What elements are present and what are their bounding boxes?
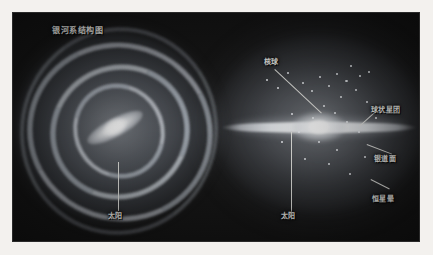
label-sun-face-on: 太阳 [108,212,123,221]
globular-cluster-dot [336,149,338,151]
globular-cluster-dot [304,158,306,160]
globular-cluster-dot [266,79,268,81]
label-stellar-halo: 恒星晕 [372,195,394,204]
globular-cluster-dot [312,117,314,119]
globular-cluster-dot [291,113,293,115]
diagram-title: 银河系结构图 [52,26,104,35]
label-galactic-plane: 银道面 [374,155,396,164]
globular-cluster-dot [281,141,283,143]
globular-cluster-dot [328,85,330,87]
globular-cluster-dot [319,76,321,78]
galactic-core-edge-on [308,120,330,134]
figure-root: 银河系结构图 太阳 [0,0,433,255]
panel-edge-on: 核球 球状星团 银道面 恒星晕 太阳 [218,13,419,241]
globular-cluster-dot [298,131,300,133]
globular-cluster-dot [336,73,338,75]
globular-cluster-dot [366,101,368,103]
globular-cluster-dot [311,90,313,92]
globular-cluster-dot [355,89,357,91]
globular-cluster-dot [358,131,360,133]
globular-cluster-dot [302,82,304,84]
globular-cluster-dot [375,117,377,119]
label-bulge: 核球 [264,58,279,67]
astronomy-photo-plate: 银河系结构图 太阳 [13,13,419,241]
globular-cluster-dot [340,96,342,98]
globular-cluster-dot [328,163,330,165]
globular-cluster-dot [349,173,351,175]
globular-cluster-dot [318,141,320,143]
globular-cluster-dot [345,80,348,82]
globular-cluster-dot [346,121,348,123]
label-sun-edge-on: 太阳 [281,212,296,221]
panel-face-on-spiral: 银河系结构图 太阳 [13,13,218,241]
globular-cluster-dot [287,72,289,74]
globular-cluster-dot [350,65,352,67]
label-globular-clusters: 球状星团 [371,106,401,115]
globular-cluster-dot [364,156,366,158]
globular-cluster-dot [277,87,279,89]
leader-line-sun-edge-on [291,132,292,212]
edge-on-galaxy-illustration [218,13,419,241]
globular-cluster-dot [359,75,361,77]
globular-cluster-dot [334,112,336,114]
globular-cluster-dot [368,71,370,73]
globular-cluster-dot [323,105,325,107]
leader-line-sun-face-on [118,162,119,211]
